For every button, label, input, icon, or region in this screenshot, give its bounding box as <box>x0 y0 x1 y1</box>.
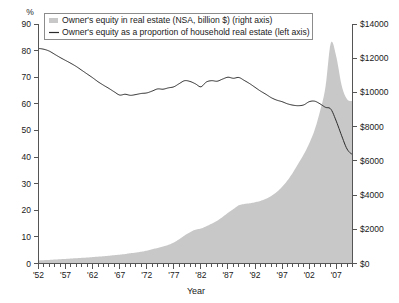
x-tick-label: '97 <box>277 270 288 280</box>
left-tick-label: 10 <box>22 232 32 242</box>
chart-container: 0102030405060708090 % $0$2000$4000$6000$… <box>0 0 399 303</box>
left-axis-unit-label: % <box>26 7 34 17</box>
x-tick-label: '77 <box>168 270 179 280</box>
x-tick-label: '62 <box>87 270 98 280</box>
right-tick-label: $4000 <box>360 190 384 200</box>
x-tick-label: '92 <box>250 270 261 280</box>
left-tick-label: 70 <box>22 72 32 82</box>
legend-label-area: Owner's equity in real estate (NSA, bill… <box>62 15 272 25</box>
left-axis-ticks: 0102030405060708090 <box>22 19 39 269</box>
bottom-axis-ticks: '52'57'62'67'72'77'82'87'92'97'02'07 <box>33 264 353 280</box>
right-tick-label: $2000 <box>360 224 384 234</box>
right-tick-label: $6000 <box>360 156 384 166</box>
x-tick-label: '57 <box>60 270 71 280</box>
x-tick-label: '67 <box>114 270 125 280</box>
right-axis-ticks: $0$2000$4000$6000$8000$10000$12000$14000 <box>353 19 389 269</box>
left-tick-label: 80 <box>22 46 32 56</box>
left-tick-label: 50 <box>22 125 32 135</box>
right-tick-label: $10000 <box>360 87 389 97</box>
x-tick-label: '82 <box>195 270 206 280</box>
plot-area <box>39 42 353 264</box>
axis-bottom: '52'57'62'67'72'77'82'87'92'97'02'07 Yea… <box>33 264 353 297</box>
left-tick-label: 90 <box>22 19 32 29</box>
x-tick-label: '87 <box>222 270 233 280</box>
left-tick-label: 0 <box>26 259 31 269</box>
x-axis-title: Year <box>187 286 205 296</box>
x-tick-label: '07 <box>331 270 342 280</box>
left-tick-label: 40 <box>22 152 32 162</box>
axis-right: $0$2000$4000$6000$8000$10000$12000$14000 <box>353 19 389 269</box>
right-tick-label: $0 <box>360 259 370 269</box>
left-tick-label: 60 <box>22 99 32 109</box>
right-tick-label: $14000 <box>360 19 389 29</box>
legend-area-swatch-icon <box>49 18 58 23</box>
line-series-owners-equity-proportion <box>39 48 353 154</box>
x-tick-label: '02 <box>304 270 315 280</box>
chart-figure: 0102030405060708090 % $0$2000$4000$6000$… <box>0 0 399 303</box>
left-tick-label: 20 <box>22 205 32 215</box>
legend-label-line: Owner's equity as a proportion of househ… <box>62 27 310 37</box>
legend: Owner's equity in real estate (NSA, bill… <box>45 14 313 40</box>
area-series-owners-equity-dollars <box>39 42 353 264</box>
axis-left: 0102030405060708090 % <box>22 7 39 269</box>
x-tick-label: '52 <box>33 270 44 280</box>
right-tick-label: $12000 <box>360 53 389 63</box>
right-tick-label: $8000 <box>360 122 384 132</box>
x-tick-label: '72 <box>141 270 152 280</box>
left-tick-label: 30 <box>22 179 32 189</box>
